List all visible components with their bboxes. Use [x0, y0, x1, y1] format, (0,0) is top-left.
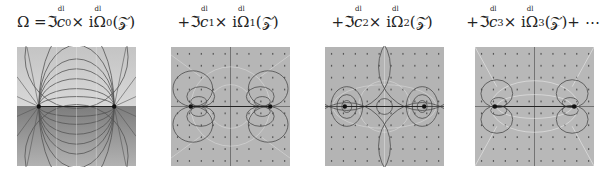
- superscript-dl: dl: [201, 5, 208, 13]
- times-i: × i: [504, 13, 526, 31]
- argument: (𝒵): [112, 13, 135, 31]
- caption-term-3: +ℑcdl3 × iΩdl3(𝒵) + ⋯: [454, 10, 612, 34]
- singularity-left: [37, 104, 41, 108]
- second-order-field-plot: [325, 46, 444, 167]
- imag-part-symbol: ℑ: [344, 13, 354, 31]
- coefficient: cdl: [57, 13, 65, 31]
- omega-term: Ωdl: [94, 13, 106, 31]
- caption-prefix: +: [466, 13, 479, 31]
- coefficient: cdl: [354, 13, 362, 31]
- omega-letter: Ω: [237, 13, 249, 31]
- superscript-dl: dl: [58, 5, 65, 13]
- singularity-right: [112, 104, 116, 108]
- caption-prefix: Ω =: [17, 13, 47, 31]
- superscript-dl: dl: [95, 5, 102, 13]
- coef-letter: c: [57, 13, 65, 31]
- third-order-field-plot: [475, 46, 594, 167]
- dipole-field-plot: [17, 46, 136, 167]
- times-i: × i: [369, 13, 391, 31]
- superscript-dl: dl: [527, 5, 534, 13]
- trail: + ⋯: [567, 13, 599, 31]
- imag-part-symbol: ℑ: [47, 13, 57, 31]
- caption-term-0: Ω = ℑcdl0 × iΩdl0(𝒵): [0, 10, 152, 34]
- imag-part-symbol: ℑ: [479, 13, 489, 31]
- caption-term-2: +ℑcdl2 × iΩdl2(𝒵): [306, 10, 458, 34]
- superscript-dl: dl: [490, 5, 497, 13]
- coef-letter: c: [200, 13, 208, 31]
- imag-part-symbol: ℑ: [190, 13, 200, 31]
- omega-letter: Ω: [94, 13, 106, 31]
- superscript-dl: dl: [392, 5, 399, 13]
- argument: (𝒵): [256, 13, 279, 31]
- field-panel-1: [171, 46, 290, 167]
- caption-term-1: +ℑcdl1 × iΩdl1(𝒵): [152, 10, 304, 34]
- coefficient: cdl: [200, 13, 208, 31]
- omega-term: Ωdl: [391, 13, 403, 31]
- omega-letter: Ω: [391, 13, 403, 31]
- first-order-field-plot: [171, 46, 290, 167]
- field-panel-0: [17, 46, 136, 167]
- argument: (𝒵): [545, 13, 568, 31]
- caption-prefix: +: [331, 13, 344, 31]
- coef-letter: c: [354, 13, 362, 31]
- omega-letter: Ω: [526, 13, 538, 31]
- superscript-dl: dl: [355, 5, 362, 13]
- field-panel-3: [475, 46, 594, 167]
- omega-term: Ωdl: [237, 13, 249, 31]
- coefficient: cdl: [489, 13, 497, 31]
- caption-prefix: +: [177, 13, 190, 31]
- omega-term: Ωdl: [526, 13, 538, 31]
- superscript-dl: dl: [238, 5, 245, 13]
- argument: (𝒵): [410, 13, 433, 31]
- times-i: × i: [215, 13, 237, 31]
- coef-letter: c: [489, 13, 497, 31]
- field-panel-2: [325, 46, 444, 167]
- times-i: × i: [71, 13, 93, 31]
